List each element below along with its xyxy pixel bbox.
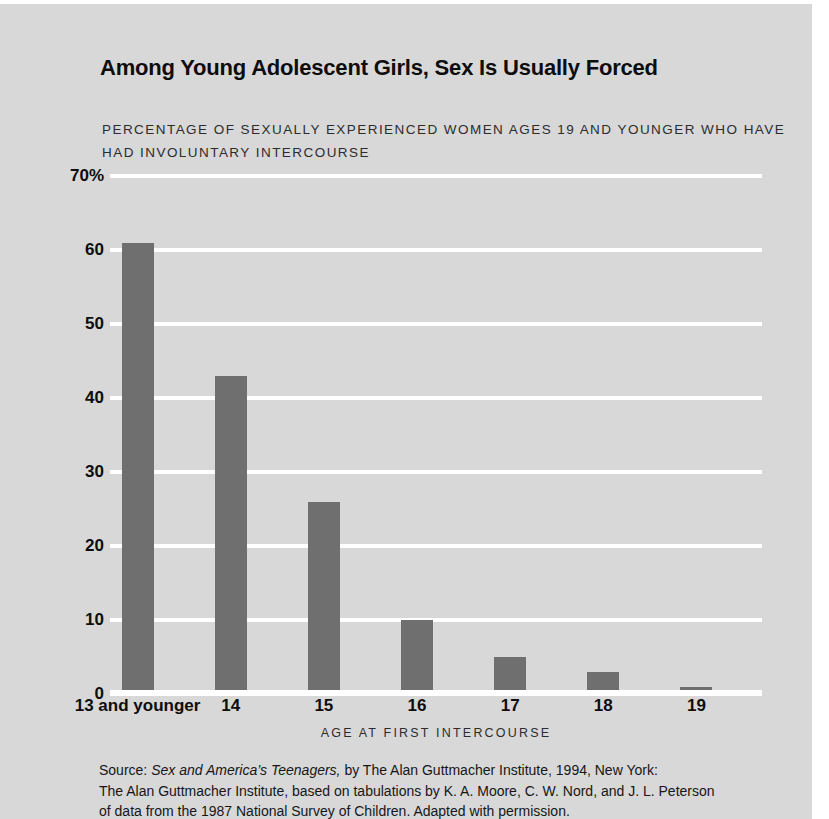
gridline [110, 174, 762, 178]
x-axis-tick-label: 16 [408, 696, 427, 716]
axis-baseline [110, 690, 762, 696]
chart-figure: Among Young Adolescent Girls, Sex Is Usu… [0, 4, 812, 819]
source-note: Source: Sex and America’s Teenagers, by … [99, 760, 799, 819]
bar [401, 620, 433, 694]
source-line3: of data from the 1987 National Survey of… [99, 803, 570, 819]
x-axis-title: AGE AT FIRST INTERCOURSE [110, 726, 762, 740]
x-axis-tick-label: 18 [594, 696, 613, 716]
gridline [110, 618, 762, 622]
chart-subtitle: PERCENTAGE OF SEXUALLY EXPERIENCED WOMEN… [102, 118, 792, 164]
bar [122, 243, 154, 694]
source-prefix: Source: [99, 762, 151, 778]
y-axis-tick-label: 40 [34, 388, 104, 408]
x-axis-tick-label: 17 [501, 696, 520, 716]
source-line1-rest: by The Alan Guttmacher Institute, 1994, … [341, 762, 658, 778]
x-axis-tick-label: 19 [687, 696, 706, 716]
x-axis-tick-label: 14 [221, 696, 240, 716]
bar [215, 376, 247, 694]
gridline [110, 396, 762, 400]
gridline [110, 322, 762, 326]
bar [308, 502, 340, 694]
gridline [110, 544, 762, 548]
y-axis-tick-label: 30 [34, 462, 104, 482]
chart-title: Among Young Adolescent Girls, Sex Is Usu… [100, 56, 780, 80]
source-line2: The Alan Guttmacher Institute, based on … [99, 783, 715, 799]
y-axis: 010203040506070% [28, 176, 104, 694]
plot-area [110, 176, 762, 694]
source-work-title: Sex and America’s Teenagers, [151, 762, 340, 778]
y-axis-tick-label: 60 [34, 240, 104, 260]
gridline [110, 248, 762, 252]
x-axis-tick-label: 13 and younger [75, 696, 201, 716]
y-axis-tick-label: 20 [34, 536, 104, 556]
y-axis-tick-label: 10 [34, 610, 104, 630]
y-axis-tick-label: 50 [34, 314, 104, 334]
gridline [110, 470, 762, 474]
bar [494, 657, 526, 694]
x-axis-tick-label: 15 [314, 696, 333, 716]
y-axis-tick-label: 70% [34, 166, 104, 186]
